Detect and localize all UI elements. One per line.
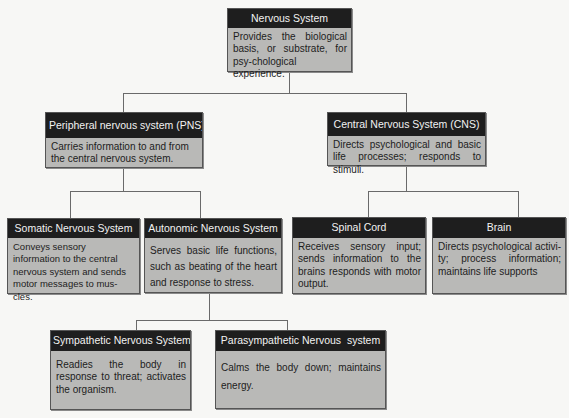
node-autonomic-nervous-system: Autonomic Nervous System Serves basic li…	[144, 218, 282, 293]
connector-to-sympathetic	[136, 320, 137, 330]
node-title: Somatic Nervous System	[8, 219, 139, 238]
node-brain: Brain Directs psychological activi-ty; p…	[432, 217, 566, 294]
node-title: Parasympathetic Nervous system	[216, 331, 385, 351]
node-description: Calms the body down; maintains energy.	[216, 351, 385, 398]
connector-to-autonomic	[200, 191, 201, 218]
connector-autonomic-branch	[136, 320, 287, 321]
connector-to-somatic	[70, 191, 71, 218]
node-parasympathetic-nervous-system: Parasympathetic Nervous system Calms the…	[215, 330, 386, 409]
connector-root-branch	[123, 93, 407, 94]
node-nervous-system: Nervous System Provides the biological b…	[227, 8, 352, 72]
node-description: Readies the body in response to threat; …	[51, 351, 190, 400]
node-title: Nervous System	[228, 9, 351, 28]
node-title: Brain	[433, 218, 565, 238]
node-description: Provides the biological basis, or substr…	[228, 28, 351, 84]
connector-to-spinal-cord	[368, 191, 369, 217]
node-description: Serves basic life functions, such as bea…	[145, 238, 281, 294]
node-description: Directs psychological and basic life pro…	[328, 136, 485, 180]
connector-to-parasympathetic	[287, 320, 288, 330]
node-title: Central Nervous System (CNS)	[328, 113, 485, 136]
node-central-nervous-system: Central Nervous System (CNS) Directs psy…	[327, 112, 486, 166]
connector-pns-down	[123, 168, 124, 191]
node-description: Carries information to and from the cent…	[46, 138, 202, 169]
connector-to-cns	[406, 93, 407, 112]
connector-to-pns	[123, 93, 124, 112]
connector-pns-branch	[70, 191, 201, 192]
node-spinal-cord: Spinal Cord Receives sensory input; send…	[292, 217, 426, 294]
node-title: Autonomic Nervous System	[145, 219, 281, 238]
node-somatic-nervous-system: Somatic Nervous System Conveys sensory i…	[7, 218, 140, 294]
node-description: Conveys sensory information to the centr…	[8, 238, 139, 307]
node-title: Peripheral nervous system (PNS)	[46, 113, 202, 138]
node-description: Receives sensory input; sends informatio…	[293, 238, 425, 294]
connector-to-brain	[518, 191, 519, 217]
node-peripheral-nervous-system: Peripheral nervous system (PNS) Carries …	[45, 112, 203, 168]
node-description: Directs psychological activi-ty; process…	[433, 238, 565, 282]
node-title: Spinal Cord	[293, 218, 425, 238]
connector-cns-branch	[368, 191, 518, 192]
node-title: Sympathetic Nervous System	[51, 331, 190, 351]
connector-autonomic-down	[209, 293, 210, 320]
node-sympathetic-nervous-system: Sympathetic Nervous System Readies the b…	[50, 330, 191, 410]
